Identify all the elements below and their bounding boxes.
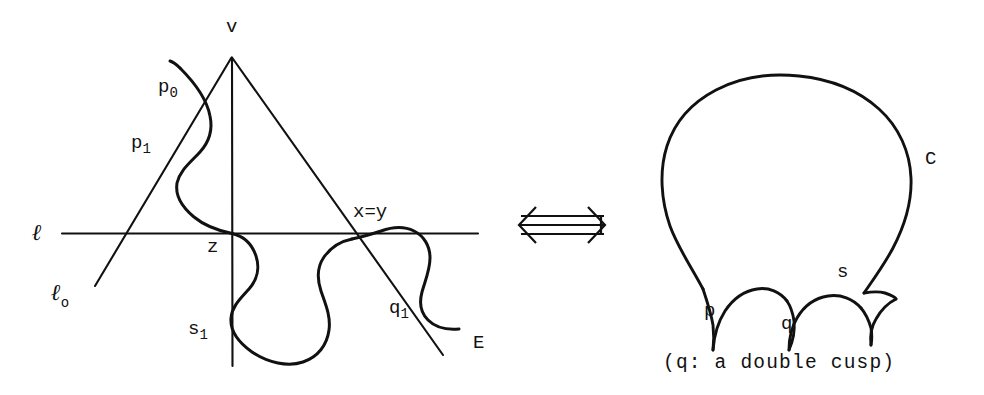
label-line-ell-zero: ℓo xyxy=(51,281,69,304)
curve-E-upper xyxy=(177,68,232,234)
label-x-equals-y: x=y xyxy=(353,203,387,222)
label-origin-z-text: z xyxy=(207,236,218,258)
label-p-zero-subscript: 0 xyxy=(169,85,177,101)
label-line-ell-text: ℓ xyxy=(32,220,42,245)
label-p-zero: p0 xyxy=(158,78,178,97)
cusp-p-right-flank xyxy=(713,289,787,350)
curve-C-outline xyxy=(662,75,911,293)
equivalence-arrow-group xyxy=(519,207,605,243)
label-s-one-subscript: 1 xyxy=(199,327,207,343)
label-q-one: q1 xyxy=(389,299,409,318)
figure-root: v p0 p1 ℓ ℓo z x=y s1 q1 E C p q s (q: a… xyxy=(0,0,984,395)
label-p-one-subscript: 1 xyxy=(142,141,150,157)
label-origin-z: z xyxy=(207,238,218,257)
label-p-zero-base: p xyxy=(158,76,169,98)
label-p-one-base: p xyxy=(131,132,142,154)
label-curve-C: C xyxy=(925,150,936,169)
label-cusp-s: s xyxy=(837,263,848,282)
label-curve-E-text: E xyxy=(473,332,484,354)
line-x-equals-y xyxy=(232,58,443,356)
cusp-q-spike xyxy=(789,296,861,350)
cusp-s-right-flank xyxy=(864,292,896,299)
label-line-ell-zero-subscript: o xyxy=(61,295,69,311)
curve-E-left-lobe xyxy=(231,234,352,365)
label-cusp-q-text: q xyxy=(781,313,792,335)
label-cusp-q: q xyxy=(781,315,792,334)
label-cusp-p-text: p xyxy=(704,300,715,322)
label-x-equals-y-text: x=y xyxy=(353,201,387,223)
label-q-one-subscript: 1 xyxy=(400,306,408,322)
figure-caption: (q: a double cusp) xyxy=(663,352,895,374)
label-s-one: s1 xyxy=(188,320,208,339)
right-diagram-group xyxy=(662,75,911,350)
label-vertex-v: v xyxy=(226,18,237,37)
figure-canvas xyxy=(0,0,984,395)
label-line-ell: ℓ xyxy=(32,221,42,244)
label-cusp-s-text: s xyxy=(837,261,848,283)
equivalence-arrow-shape xyxy=(519,207,605,243)
cusp-s-spike xyxy=(871,299,896,345)
label-s-one-base: s xyxy=(188,318,199,340)
curve-E-top-tail xyxy=(170,61,180,68)
label-curve-C-text: C xyxy=(925,148,936,170)
label-cusp-p: p xyxy=(704,302,715,321)
label-p-one: p1 xyxy=(131,134,151,153)
figure-caption-text: (q: a double cusp) xyxy=(663,352,895,374)
label-line-ell-zero-base: ℓ xyxy=(51,280,61,305)
label-vertex-v-text: v xyxy=(226,16,237,38)
label-q-one-base: q xyxy=(389,297,400,319)
label-curve-E: E xyxy=(473,334,484,353)
left-diagram-group xyxy=(62,58,478,367)
